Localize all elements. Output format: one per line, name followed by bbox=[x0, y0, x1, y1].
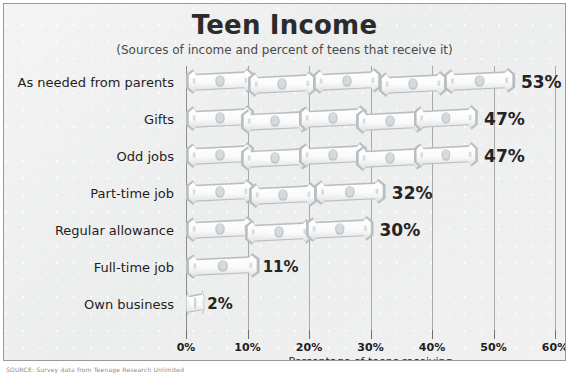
x-tick-label-0%: 0% bbox=[177, 341, 196, 354]
money-bill bbox=[186, 253, 260, 279]
category-label-part-time-job: Part-time job bbox=[90, 186, 174, 201]
x-tick-label-40%: 40% bbox=[419, 341, 445, 354]
money-bill-graphic bbox=[379, 71, 447, 97]
money-bill bbox=[186, 68, 254, 94]
plot-area: 53% bbox=[186, 66, 555, 330]
money-bill bbox=[186, 179, 254, 205]
category-label-gifts: Gifts bbox=[144, 112, 174, 127]
money-bill bbox=[313, 68, 381, 94]
x-tick-label-10%: 10% bbox=[234, 341, 260, 354]
bar-row: 53% bbox=[186, 64, 566, 101]
money-bill bbox=[245, 219, 313, 245]
money-bill bbox=[249, 182, 317, 208]
x-axis-label: Percentage of teens receiving bbox=[289, 355, 453, 361]
money-bill bbox=[248, 71, 316, 97]
value-label: 32% bbox=[392, 183, 433, 203]
bar-as-needed-from-parents bbox=[186, 68, 512, 97]
x-tick-label-60%: 60% bbox=[542, 341, 566, 354]
bar-part-time-job bbox=[186, 179, 383, 208]
money-bill-graphic bbox=[249, 182, 317, 208]
value-label: 30% bbox=[380, 220, 421, 240]
bar-row: 11% bbox=[186, 249, 566, 286]
money-bill bbox=[186, 290, 204, 316]
category-label-as-needed-from-parents: As needed from parents bbox=[18, 75, 174, 90]
category-label-full-time-job: Full-time job bbox=[94, 260, 174, 275]
x-tick-label-20%: 20% bbox=[296, 341, 322, 354]
money-bill-graphic bbox=[306, 216, 374, 242]
money-bill-graphic bbox=[313, 68, 381, 94]
money-bill-graphic bbox=[414, 105, 478, 131]
bar-row: 30% bbox=[186, 212, 566, 249]
value-label: 2% bbox=[207, 295, 232, 313]
bar-regular-allowance bbox=[186, 216, 371, 245]
money-bill-graphic bbox=[186, 290, 204, 316]
money-bill bbox=[444, 68, 515, 94]
money-bill-graphic bbox=[314, 179, 386, 205]
value-label: 47% bbox=[484, 109, 525, 129]
x-tick-30% bbox=[371, 330, 372, 339]
bar-row: 47% bbox=[186, 101, 566, 138]
money-bill bbox=[414, 142, 478, 168]
x-tick-40% bbox=[432, 330, 433, 339]
chart-subtitle: (Sources of income and percent of teens … bbox=[4, 43, 565, 57]
value-label: 11% bbox=[263, 258, 299, 276]
money-bill-graphic bbox=[414, 142, 478, 168]
chart-title: Teen Income bbox=[4, 10, 565, 40]
x-tick-label-30%: 30% bbox=[357, 341, 383, 354]
category-label-own-business: Own business bbox=[84, 297, 174, 312]
chart-panel: Teen Income (Sources of income and perce… bbox=[3, 3, 566, 361]
x-tick-20% bbox=[309, 330, 310, 339]
category-axis: As needed from parentsGiftsOdd jobsPart-… bbox=[8, 66, 180, 330]
money-bill-graphic bbox=[186, 68, 254, 94]
bar-row: 32% bbox=[186, 175, 566, 212]
bar-gifts bbox=[186, 105, 475, 134]
money-bill-graphic bbox=[248, 71, 316, 97]
bar-full-time-job bbox=[186, 253, 254, 282]
bar-row: 2% bbox=[186, 286, 566, 323]
money-bill-graphic bbox=[186, 179, 254, 205]
source-note: SOURCE: Survey data from Teenage Researc… bbox=[6, 366, 306, 377]
money-bill bbox=[379, 71, 447, 97]
bar-own-business bbox=[186, 290, 198, 319]
x-tick-60% bbox=[555, 330, 556, 339]
x-tick-50% bbox=[494, 330, 495, 339]
value-label: 47% bbox=[484, 146, 525, 166]
category-label-regular-allowance: Regular allowance bbox=[55, 223, 174, 238]
money-bill bbox=[314, 179, 386, 205]
x-tick-10% bbox=[248, 330, 249, 339]
x-tick-0% bbox=[186, 330, 187, 339]
money-bill bbox=[414, 105, 478, 131]
money-bill-graphic bbox=[444, 68, 515, 94]
money-bill-graphic bbox=[245, 219, 313, 245]
money-bill bbox=[306, 216, 374, 242]
category-label-odd-jobs: Odd jobs bbox=[117, 149, 174, 164]
money-bill-graphic bbox=[186, 253, 260, 279]
bar-row: 47% bbox=[186, 138, 566, 175]
bar-odd-jobs bbox=[186, 142, 475, 171]
value-label: 53% bbox=[521, 72, 562, 92]
x-tick-label-50%: 50% bbox=[480, 341, 506, 354]
